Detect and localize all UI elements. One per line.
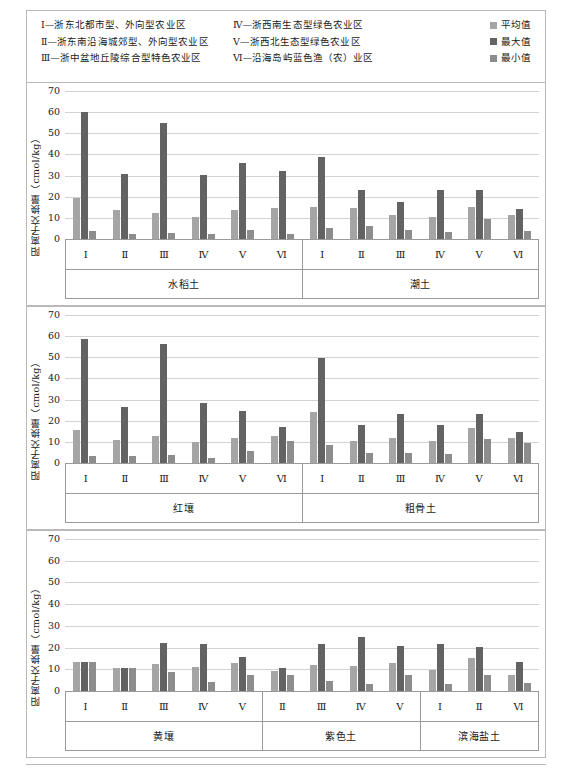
bar-cluster [223,315,263,463]
bar-min [247,230,254,239]
bar-cluster [342,315,382,463]
bar-cluster [263,539,303,691]
bar-min [168,672,175,691]
region-key-columns: Ⅰ—浙东北都市型、外向型农业区 Ⅱ—浙东南沿海城郊型、外向型农业区 Ⅲ—浙中盆地… [27,11,545,67]
bar-max [279,668,286,691]
category-label: Ⅰ [303,464,342,493]
chart-page: Ⅰ—浙东北都市型、外向型农业区 Ⅱ—浙东南沿海城郊型、外向型农业区 Ⅲ—浙中盆地… [0,0,562,771]
category-label: Ⅰ [421,692,460,721]
bar-max [160,344,167,463]
region-key-box: Ⅰ—浙东北都市型、外向型农业区 Ⅱ—浙东南沿海城郊型、外向型农业区 Ⅲ—浙中盆地… [26,10,546,82]
bar-mean [271,208,278,239]
bar-min [366,684,373,691]
bar-mean [113,440,120,463]
bar-mean [113,668,120,691]
bar-group-黄壤 [65,539,263,691]
bar-cluster [184,91,224,239]
bar-max [200,403,207,463]
y-tick-label: 40 [48,599,60,609]
category-label: Ⅴ [223,240,262,269]
category-label: Ⅵ [262,240,301,269]
bar-mean [231,663,238,691]
group-cell-粗骨土: ⅠⅡⅢⅣⅤⅥ粗骨土 [302,463,540,523]
y-tick-label: 50 [48,129,60,139]
bar-max [437,425,444,463]
bar-mean [429,441,436,463]
bar-min [445,684,452,691]
group-cell-水稻土: ⅠⅡⅢⅣⅤⅥ水稻土 [65,239,303,299]
bar-max [358,190,365,239]
bar-cluster [144,315,184,463]
bar-max [516,209,523,239]
bar-mean [152,436,159,463]
y-tick-label: 0 [54,234,60,244]
bar-mean [389,663,396,691]
bar-cluster [65,91,105,239]
bar-min [445,232,452,239]
category-label: Ⅲ [144,692,183,721]
bar-max [121,668,128,691]
group-label: 紫色土 [263,721,420,751]
bar-mean [468,428,475,463]
legend-label-mean: 平均值 [501,17,531,34]
legend-swatch-mean [490,22,497,29]
bar-mean [271,436,278,463]
bar-min [366,453,373,463]
category-row: ⅠⅡⅢⅣⅤ [66,692,262,721]
bar-mean [152,213,159,239]
bar-mean [152,664,159,691]
footer-rule [26,764,546,765]
bar-min [405,230,412,239]
category-label: Ⅴ [223,464,262,493]
bar-cluster [263,315,303,463]
axis-area: 706050403020100ⅠⅡⅢⅣⅤⅥ水稻土ⅠⅡⅢⅣⅤⅥ潮土 [43,91,539,305]
bar-max [160,643,167,691]
bar-group-潮土 [302,91,539,239]
category-row: ⅠⅡⅢⅣⅤⅥ [66,464,302,493]
bar-cluster [302,91,342,239]
bar-mean [231,210,238,239]
chart-panel-0: 阳离子交换量（cmol/kg）706050403020100ⅠⅡⅢⅣⅤⅥ水稻土Ⅰ… [26,82,546,306]
category-label: Ⅰ [66,464,105,493]
category-row: ⅠⅡⅥ [421,692,539,721]
bar-cluster [105,539,145,691]
y-tick-label: 0 [54,686,60,696]
category-label: Ⅲ [381,464,420,493]
y-tick-label: 20 [48,416,60,426]
bar-max [476,414,483,463]
bar-max [437,190,444,239]
bar-cluster [144,91,184,239]
y-tick-label: 30 [48,395,60,405]
bar-min [524,683,531,691]
bar-min [484,675,491,691]
category-label: Ⅳ [420,464,459,493]
legend-label-min: 最小值 [501,50,531,67]
bar-min [326,681,333,691]
bar-min [287,441,294,463]
bar-max [397,202,404,239]
y-tick-label: 50 [48,578,60,588]
bar-min [405,453,412,463]
y-tick-label: 60 [48,556,60,566]
bar-min [326,228,333,239]
category-label: Ⅵ [499,240,538,269]
bar-cluster [144,539,184,691]
category-label: Ⅵ [499,692,538,721]
legend-swatch-min [490,55,497,62]
bar-cluster [65,539,105,691]
y-tick-label: 50 [48,353,60,363]
category-label: Ⅰ [66,240,105,269]
bar-max [318,157,325,239]
bar-group-紫色土 [263,539,421,691]
bar-mean [73,662,80,691]
group-label: 红壤 [66,493,302,523]
bar-mean [192,667,199,691]
region-key-item: Ⅳ—浙西南生态型绿色农业区 [233,17,423,34]
y-tick-label: 20 [48,192,60,202]
bar-series-container [65,539,539,691]
bar-mean [231,438,238,463]
bar-cluster [381,91,421,239]
bar-cluster [105,315,145,463]
category-label-table: ⅠⅡⅢⅣⅤⅥ红壤ⅠⅡⅢⅣⅤⅥ粗骨土 [65,463,539,523]
bar-cluster [500,315,540,463]
